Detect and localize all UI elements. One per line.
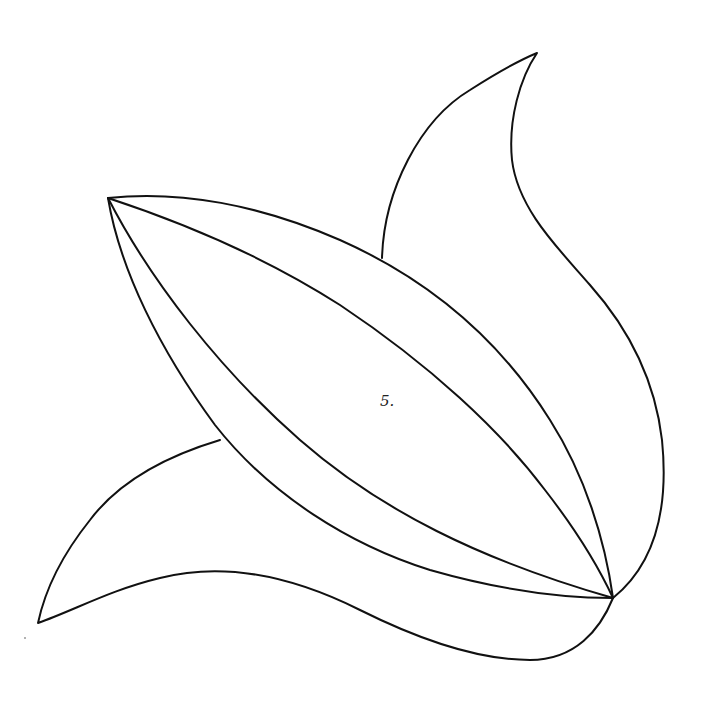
paper-speck (24, 637, 26, 639)
inner-vein-upper (108, 198, 613, 598)
upper-petal-outline (382, 53, 664, 598)
leaf-drawing (0, 0, 709, 714)
section-number-label: 5. (380, 392, 394, 410)
main-leaf-top-edge (108, 196, 613, 598)
lower-petal-outline (38, 440, 613, 660)
inner-vein-lower (108, 198, 613, 598)
main-leaf-bottom-edge (108, 198, 613, 598)
